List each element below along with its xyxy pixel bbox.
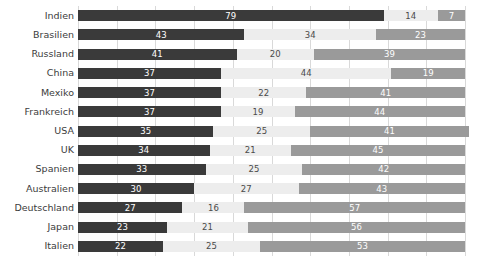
- bar-segment: 34: [78, 145, 210, 156]
- bar-value-label: 79: [225, 11, 236, 20]
- bar-segment: 27: [194, 183, 298, 194]
- bar-value-label: 43: [376, 184, 387, 193]
- bar-value-label: 53: [357, 242, 368, 251]
- bar-value-label: 43: [156, 31, 167, 40]
- bar-segment: 34: [244, 29, 376, 40]
- category-label: China: [0, 68, 74, 78]
- bar-value-label: 45: [372, 146, 383, 155]
- bar-row: 271657: [78, 202, 465, 213]
- category-label: Japan: [0, 222, 74, 232]
- plot-area: 7914743342341203937441937224137194435254…: [78, 6, 465, 256]
- bar-value-label: 57: [349, 204, 360, 213]
- bar-segment: 37: [78, 68, 221, 79]
- bar-value-label: 25: [206, 242, 217, 251]
- bar-segment: 41: [78, 49, 237, 60]
- bar-segment: 44: [221, 68, 391, 79]
- bar-rows: 7914743342341203937441937224137194435254…: [78, 6, 465, 256]
- bar-value-label: 21: [202, 223, 213, 232]
- category-label: Frankreich: [0, 107, 74, 117]
- bar-value-label: 34: [138, 146, 149, 155]
- bar-row: 371944: [78, 106, 465, 117]
- bar-value-label: 39: [384, 50, 395, 59]
- bar-value-label: 44: [301, 69, 312, 78]
- bar-value-label: 30: [131, 184, 142, 193]
- bar-row: 302743: [78, 183, 465, 194]
- bar-segment: 23: [78, 222, 167, 233]
- bar-value-label: 56: [351, 223, 362, 232]
- bar-value-label: 16: [208, 204, 219, 213]
- bar-segment: 37: [78, 106, 221, 117]
- bar-segment: 39: [314, 49, 465, 60]
- bar-segment: 42: [302, 164, 465, 175]
- category-label: Indien: [0, 11, 74, 21]
- bar-segment: 79: [78, 10, 384, 21]
- bar-row: 372241: [78, 87, 465, 98]
- bar-value-label: 44: [374, 108, 385, 117]
- bar-segment: 30: [78, 183, 194, 194]
- bar-value-label: 22: [115, 242, 126, 251]
- bar-row: 433423: [78, 29, 465, 40]
- bar-row: 342145: [78, 145, 465, 156]
- bar-value-label: 37: [144, 88, 155, 97]
- bar-value-label: 22: [258, 88, 269, 97]
- bar-segment: 33: [78, 164, 206, 175]
- bar-value-label: 23: [117, 223, 128, 232]
- bar-segment: 7: [438, 10, 465, 21]
- bar-value-label: 25: [256, 127, 267, 136]
- bar-value-label: 42: [378, 165, 389, 174]
- bar-segment: 16: [182, 202, 244, 213]
- bar-value-label: 33: [136, 165, 147, 174]
- bar-row: 232156: [78, 222, 465, 233]
- bar-value-label: 20: [270, 50, 281, 59]
- bar-row: 332542: [78, 164, 465, 175]
- category-label: Spanien: [0, 164, 74, 174]
- bar-row: 352541: [78, 126, 465, 137]
- bar-value-label: 37: [144, 108, 155, 117]
- bar-segment: 43: [299, 183, 465, 194]
- bar-value-label: 41: [152, 50, 163, 59]
- bar-value-label: 7: [449, 11, 455, 20]
- bar-segment: 22: [78, 241, 163, 252]
- bar-segment: 25: [163, 241, 260, 252]
- bar-segment: 21: [167, 222, 248, 233]
- bar-value-label: 27: [241, 184, 252, 193]
- bar-segment: 19: [221, 106, 295, 117]
- bar-value-label: 35: [140, 127, 151, 136]
- stacked-bar-chart: IndienBrasilienRusslandChinaMexikoFrankr…: [0, 0, 488, 262]
- bar-segment: 23: [376, 29, 465, 40]
- bar-value-label: 19: [252, 108, 263, 117]
- bar-value-label: 14: [405, 11, 416, 20]
- bar-segment: 35: [78, 126, 213, 137]
- bar-segment: 27: [78, 202, 182, 213]
- bar-value-label: 34: [305, 31, 316, 40]
- bar-segment: 25: [213, 126, 310, 137]
- bar-value-label: 23: [415, 31, 426, 40]
- category-label: Australien: [0, 184, 74, 194]
- category-label: Brasilien: [0, 30, 74, 40]
- bar-segment: 53: [260, 241, 465, 252]
- bar-row: 79147: [78, 10, 465, 21]
- category-label: Russland: [0, 49, 74, 59]
- bar-value-label: 37: [144, 69, 155, 78]
- bar-segment: 22: [221, 87, 306, 98]
- bar-value-label: 25: [249, 165, 260, 174]
- bar-segment: 43: [78, 29, 244, 40]
- bar-segment: 20: [237, 49, 314, 60]
- bar-value-label: 21: [245, 146, 256, 155]
- bar-row: 222553: [78, 241, 465, 252]
- bar-segment: 37: [78, 87, 221, 98]
- bar-segment: 41: [306, 87, 465, 98]
- bar-row: 412039: [78, 49, 465, 60]
- bar-segment: 14: [384, 10, 438, 21]
- bar-segment: 41: [310, 126, 469, 137]
- bar-segment: 44: [295, 106, 465, 117]
- category-label: Deutschland: [0, 203, 74, 213]
- bar-segment: 21: [210, 145, 291, 156]
- category-label: Italien: [0, 241, 74, 251]
- category-label: UK: [0, 145, 74, 155]
- bar-segment: 25: [206, 164, 303, 175]
- bar-value-label: 19: [423, 69, 434, 78]
- bar-row: 374419: [78, 68, 465, 79]
- bar-segment: 45: [291, 145, 465, 156]
- bar-value-label: 41: [384, 127, 395, 136]
